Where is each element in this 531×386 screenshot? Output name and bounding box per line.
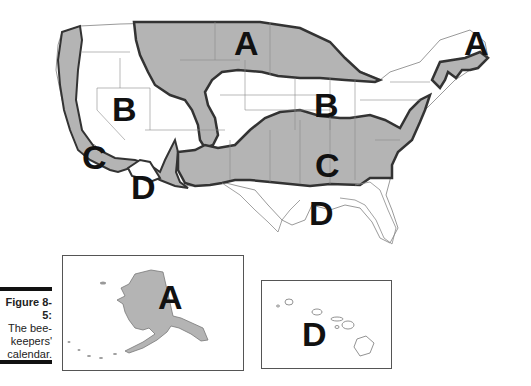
caption-line-1: The bee- (0, 322, 52, 335)
zone-label-d-gulf: D (309, 196, 334, 230)
zone-label-hawaii: D (302, 317, 327, 351)
alaska-inset: A (62, 255, 244, 371)
hawaii-inset: D (261, 280, 392, 369)
zone-label-b-central: B (314, 88, 339, 122)
figure-number: Figure 8-5: (0, 296, 52, 322)
zone-label-c-west: C (82, 140, 107, 174)
zone-label-a-north: A (234, 26, 259, 60)
figure-caption: Figure 8-5: The bee- keepers' calendar. (0, 296, 52, 361)
zone-label-d-southwest: D (131, 170, 156, 204)
caption-top-rule (0, 287, 52, 291)
aleutian-islands (68, 282, 118, 360)
zone-label-alaska: A (158, 280, 183, 314)
zone-label-a-northeast: A (464, 26, 489, 60)
alaska-map (63, 256, 243, 370)
zone-label-c-south: C (315, 148, 340, 182)
zone-label-b-west: B (112, 92, 137, 126)
caption-bottom-rule (0, 360, 52, 364)
caption-line-2: keepers' (0, 335, 52, 348)
